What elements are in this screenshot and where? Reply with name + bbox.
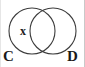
circle-set-c — [9, 8, 55, 54]
figure-border-right — [84, 0, 85, 67]
set-label-c: C — [3, 49, 14, 64]
figure-border-left — [0, 0, 1, 67]
venn-diagram: C D x — [0, 0, 85, 67]
set-label-d: D — [67, 49, 78, 64]
element-label-x: x — [20, 25, 26, 37]
